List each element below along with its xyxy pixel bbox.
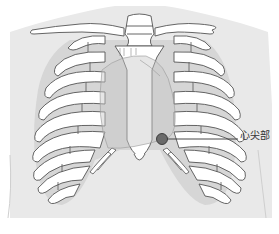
apex-label: 心尖部: [240, 130, 270, 142]
apex-marker: [157, 134, 168, 145]
chest-diagram: [0, 0, 279, 234]
manubrium: [125, 14, 154, 46]
